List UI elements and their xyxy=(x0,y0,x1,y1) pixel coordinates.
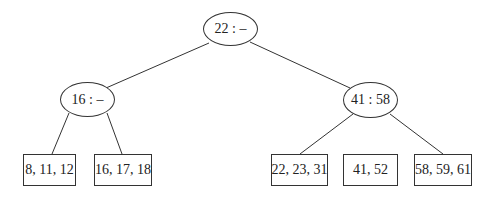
leaf-node-3-label: 22, 23, 31 xyxy=(272,162,328,178)
edge-right-leaf5 xyxy=(390,114,443,154)
leaf-node-1-label: 8, 11, 12 xyxy=(25,162,73,178)
leaf-node-2: 16, 17, 18 xyxy=(94,154,152,186)
internal-node-right-label: 41 : 58 xyxy=(351,92,390,108)
leaf-node-5-label: 58, 59, 61 xyxy=(415,162,471,178)
leaf-node-5: 58, 59, 61 xyxy=(414,154,472,186)
edge-root-left xyxy=(106,43,209,88)
leaf-node-4: 41, 52 xyxy=(343,154,398,186)
internal-node-right: 41 : 58 xyxy=(343,82,398,118)
root-node-label: 22 : – xyxy=(215,21,247,37)
leaf-node-3: 22, 23, 31 xyxy=(271,154,328,186)
root-node: 22 : – xyxy=(203,12,258,46)
leaf-node-2-label: 16, 17, 18 xyxy=(95,162,151,178)
edge-root-right xyxy=(250,42,350,88)
edge-left-leaf2 xyxy=(107,113,122,154)
leaf-node-4-label: 41, 52 xyxy=(353,162,388,178)
internal-node-left-label: 16 : – xyxy=(72,92,104,108)
edge-left-leaf1 xyxy=(52,113,69,154)
tree-diagram: 22 : – 16 : – 41 : 58 8, 11, 12 16, 17, … xyxy=(0,0,493,199)
internal-node-left: 16 : – xyxy=(60,82,115,117)
leaf-node-1: 8, 11, 12 xyxy=(23,154,76,186)
edge-right-leaf3 xyxy=(300,114,353,154)
